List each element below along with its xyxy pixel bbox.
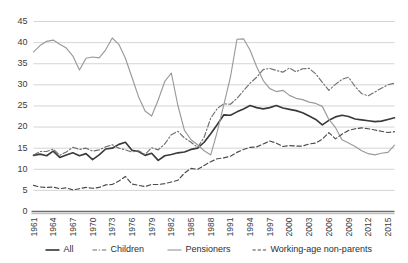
- x-axis-tick-label: 1982: [166, 217, 176, 236]
- y-axis-tick-label: 15: [17, 143, 27, 153]
- y-axis-tick-label: 20: [17, 121, 27, 131]
- y-axis-tick-label: 45: [17, 16, 27, 26]
- x-axis-tick-label: 1979: [147, 217, 157, 236]
- x-axis-tick-label: 2012: [363, 217, 373, 236]
- x-axis-tick-label: 1976: [127, 217, 137, 236]
- x-axis-tick-label: 1985: [186, 217, 196, 236]
- gridlines: [34, 22, 395, 191]
- legend-label-working-age-non-parents: Working-age non-parents: [271, 244, 373, 254]
- y-axis-tick-label: 30: [17, 79, 27, 89]
- y-axis-tick-label: 10: [17, 164, 27, 174]
- y-axis-tick-label: 40: [17, 37, 27, 47]
- legend-label-children: Children: [111, 244, 145, 254]
- x-axis-tick-label: 1997: [265, 217, 275, 236]
- x-axis-tick-label: 1973: [107, 217, 117, 236]
- x-axis-tick-label: 2003: [304, 217, 314, 236]
- y-axis-tick-labels: 051015202530354045: [17, 16, 27, 216]
- series-line-pensioners: [34, 38, 395, 155]
- y-axis-tick-label: 25: [17, 100, 27, 110]
- legend-label-all: All: [64, 244, 74, 254]
- x-axis-tick-label: 1988: [206, 217, 216, 236]
- x-axis-tick-label: 2000: [284, 217, 294, 236]
- x-axis-line: [32, 212, 395, 214]
- poverty-rate-line-chart: 051015202530354045 196119641967197019731…: [0, 0, 408, 263]
- x-axis-tick-label: 1991: [225, 217, 235, 236]
- x-axis-tick-label: 1967: [68, 217, 78, 236]
- chart-legend: AllChildrenPensionersWorking-age non-par…: [46, 244, 373, 254]
- data-series: [34, 38, 395, 190]
- x-axis-tick-label: 1994: [245, 217, 255, 236]
- x-axis-tick-label: 2009: [344, 217, 354, 236]
- x-axis-tick-label: 1964: [48, 217, 58, 236]
- x-axis-tick-label: 2015: [383, 217, 393, 236]
- x-axis-tick-label: 2006: [324, 217, 334, 236]
- chart-canvas: 051015202530354045 196119641967197019731…: [0, 0, 408, 263]
- x-axis-tick-label: 1970: [88, 217, 98, 236]
- x-axis-tick-label: 1961: [29, 217, 39, 236]
- y-axis-tick-label: 0: [22, 206, 27, 216]
- x-axis-tick-labels: 1961196419671970197319761979198219851988…: [29, 217, 393, 236]
- y-axis-tick-label: 5: [22, 185, 27, 195]
- y-axis-tick-label: 35: [17, 58, 27, 68]
- legend-label-pensioners: Pensioners: [186, 244, 232, 254]
